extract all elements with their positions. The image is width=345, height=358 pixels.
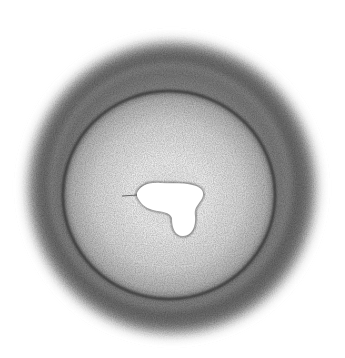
sketch-image xyxy=(0,0,345,358)
circular-sketch-graphic xyxy=(0,0,345,358)
